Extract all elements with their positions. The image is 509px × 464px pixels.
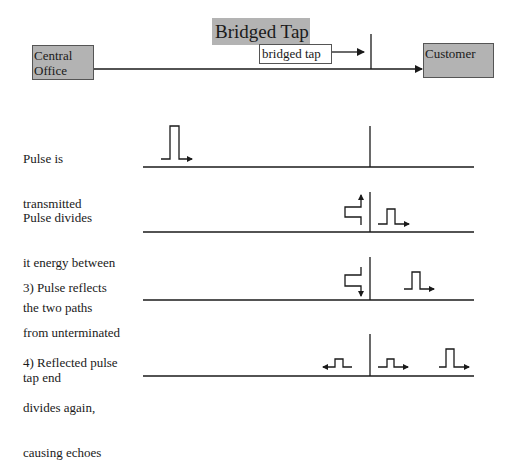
step-4-caption: 4) Reflected pulse divides again, causin… — [23, 325, 118, 464]
central-office-label-line1: Central — [34, 48, 92, 63]
step-4-line-3: causing echoes — [23, 445, 118, 460]
row-1-graphic — [143, 126, 474, 167]
customer-box: Customer — [423, 43, 494, 78]
bridged-tap-label: bridged tap — [259, 44, 332, 64]
step-1-line-1: Pulse is — [23, 151, 82, 166]
central-office-box: Central Office — [32, 45, 94, 80]
diagram-title: Bridged Tap — [212, 18, 310, 45]
central-office-label-line2: Office — [34, 63, 92, 78]
step-3-line-1: 3) Pulse reflects — [23, 280, 120, 295]
row-4-graphic — [143, 334, 474, 376]
customer-label: Customer — [425, 46, 492, 61]
row-3-graphic — [143, 257, 474, 300]
step-2-line-1: Pulse divides — [23, 210, 115, 225]
step-4-line-2: divides again, — [23, 400, 118, 415]
row-2-graphic — [143, 192, 474, 232]
step-4-line-1: 4) Reflected pulse — [23, 355, 118, 370]
